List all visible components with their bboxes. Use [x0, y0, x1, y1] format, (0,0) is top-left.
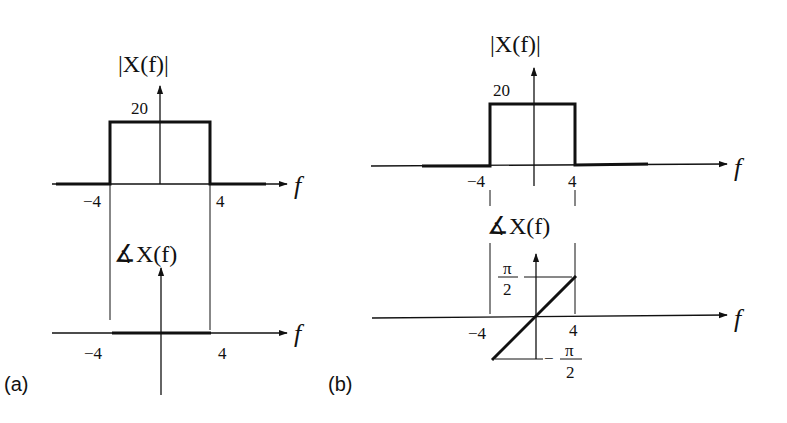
panel-a-magnitude-x-tick-left: −4 [83, 192, 102, 211]
panel-b-magnitude-x-tick-right: 4 [568, 172, 577, 191]
panel-a-magnitude-plot: |X(f)| 20 −4 4 f [52, 51, 305, 211]
panel-a-phase-title: ∡X(f) [114, 241, 177, 267]
panel-b-magnitude-x-tick-left: −4 [467, 172, 486, 191]
panel-b-magnitude-y-tick: 20 [493, 81, 510, 100]
minus-sign: − [544, 349, 554, 368]
panel-b-magnitude-plot: |X(f)| 20 −4 4 f [371, 31, 745, 191]
panel-b-magnitude-x-label: f [734, 153, 745, 182]
panel-b-label: (b) [328, 373, 352, 395]
panel-a-phase-x-label: f [294, 319, 305, 348]
pi-numerator: π [503, 259, 512, 278]
panel-b-phase-y-tick-top: π 2 [498, 259, 518, 299]
two-denominator: 2 [566, 363, 575, 382]
panel-b-phase-x-tick-left: −4 [468, 324, 487, 343]
panel-a-label: (a) [4, 373, 28, 395]
panel-b-phase-x-axis [372, 315, 727, 318]
panel-a-magnitude-x-tick-right: 4 [216, 192, 225, 211]
panel-a-magnitude-title: |X(f)| [118, 51, 169, 77]
panel-a-phase-plot: ∡X(f) −4 4 f [52, 241, 305, 395]
panel-b-magnitude-title: |X(f)| [490, 31, 541, 57]
panel-a-magnitude-x-label: f [294, 171, 305, 200]
panel-a-phase-x-tick-left: −4 [84, 344, 103, 363]
panel-b-phase-plot: ∡X(f) π 2 − π 2 −4 4 f [372, 213, 745, 382]
panel-a-magnitude-curve [56, 122, 266, 184]
panel-b: |X(f)| 20 −4 4 f ∡X(f) π 2 [328, 31, 745, 395]
panel-b-phase-title: ∡X(f) [487, 213, 550, 239]
figure-canvas: |X(f)| 20 −4 4 f ∡X(f) −4 4 f (a) | [0, 0, 787, 423]
panel-a-phase-x-tick-right: 4 [218, 344, 227, 363]
panel-a: |X(f)| 20 −4 4 f ∡X(f) −4 4 f (a) [4, 51, 305, 395]
panel-b-phase-x-label: f [734, 304, 745, 333]
pi-numerator: π [565, 341, 574, 360]
panel-b-phase-x-tick-right: 4 [569, 321, 578, 340]
panel-b-phase-y-tick-bottom: − π 2 [544, 341, 582, 382]
panel-b-magnitude-curve [422, 104, 648, 166]
two-denominator: 2 [503, 280, 512, 299]
panel-a-magnitude-y-tick: 20 [131, 99, 148, 118]
